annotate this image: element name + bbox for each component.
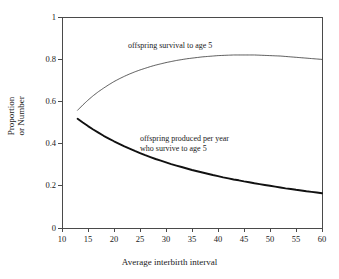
y-tick-label: 0 — [4, 224, 56, 233]
y-axis-title: Proportion or Number — [7, 66, 27, 166]
offspring-survival-annotation: offspring survival to age 5 — [128, 41, 212, 51]
data-series-group — [78, 55, 322, 193]
series-line-2 — [78, 119, 322, 193]
x-axis-title: Average interbirth interval — [0, 258, 339, 267]
y-tick-label: 0.8 — [4, 55, 56, 64]
y-axis-title-line-2: or Number — [17, 66, 27, 166]
offspring-produced-annotation-line-1: offspring produced per year — [140, 134, 229, 144]
x-tick-label: 60 — [307, 235, 337, 244]
y-tick-label: 1 — [4, 13, 56, 22]
y-tick-label: 0.2 — [4, 181, 56, 190]
series-line-1 — [78, 55, 322, 110]
offspring-produced-annotation-line-2: who survive to age 5 — [140, 144, 229, 154]
chart-figure: 00.20.40.60.81 1015202530354045505560 Av… — [0, 0, 339, 279]
offspring-produced-annotation: offspring produced per year who survive … — [140, 134, 229, 154]
